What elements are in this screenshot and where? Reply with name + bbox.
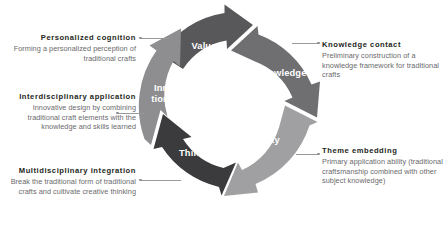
annotation-interdisciplinary-application: Interdisciplinary application Innovative… [8,92,136,132]
annotation-multidisciplinary-integration: Multidisciplinary integration Break the … [8,166,136,196]
annotation-theme-embedding-title: Theme embedding [322,146,448,156]
connector-line-multidisciplinary [141,180,181,181]
annotation-knowledge-contact-body: Preliminary construction of a knowledge … [322,51,448,80]
annotation-knowledge-contact-title: Knowledge contact [322,40,448,50]
cycle-segment-thinking-label: Thinking [179,148,219,158]
annotation-multidisciplinary-integration-title: Multidisciplinary integration [8,166,136,176]
annotation-personalized-cognition-title: Personalized cognition [8,33,136,43]
cycle-segment-value-label: Value [191,41,216,51]
cycle-segment-thinking: Thinking [154,114,237,196]
connector-dot-personalized-cognition [139,37,142,40]
cycle-segment-ability: Ability [224,106,318,197]
annotation-interdisciplinary-application-body: Innovative design by combining tradition… [8,103,136,132]
annotation-theme-embedding: Theme embedding Primary application abil… [322,146,448,186]
connector-dot-multidisciplinary [139,179,142,182]
connector-line-knowledge-contact [292,43,318,44]
cycle-segment-knowledge: Knowledge [231,26,320,118]
annotation-multidisciplinary-integration-body: Break the traditional form of traditiona… [8,177,136,196]
cycle-segment-ability-shape [224,106,318,197]
connector-line-theme-embedding [296,154,318,155]
cycle-segment-innovation-label: Innova- [154,83,188,93]
annotation-theme-embedding-body: Primary application ability (traditional… [322,157,448,186]
connector-line-personalized-cognition [141,38,169,39]
cycle-segment-knowledge-label: Knowledge [256,68,307,78]
annotation-interdisciplinary-application-title: Interdisciplinary application [8,92,136,102]
annotation-personalized-cognition: Personalized cognition Forming a persona… [8,33,136,63]
cycle-segment-innovation-label-2: tion [151,94,169,104]
annotation-personalized-cognition-body: Forming a personalized perception of tra… [8,44,136,63]
cycle-segment-ability-label: Ability [250,135,280,145]
connector-dot-knowledge-contact [317,42,320,45]
connector-dot-theme-embedding [317,153,320,156]
annotation-knowledge-contact: Knowledge contact Preliminary constructi… [322,40,448,80]
